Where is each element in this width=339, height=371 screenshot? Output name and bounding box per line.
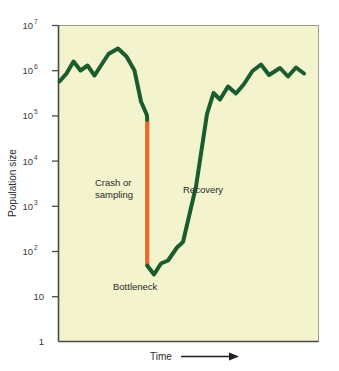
population-bottleneck-chart: 10 7 10 6 10 5 10 4 10 3 10 2 10 1 Popul… bbox=[0, 0, 339, 371]
y-tick-label-10e5-base: 10 bbox=[22, 110, 33, 121]
y-axis-tick-labels: 10 7 10 6 10 5 10 4 10 3 10 2 10 1 bbox=[22, 18, 44, 347]
y-axis-ticks bbox=[52, 26, 59, 297]
y-tick-label-10e6-exp: 6 bbox=[34, 63, 38, 70]
y-tick-label-10e5-exp: 5 bbox=[34, 108, 38, 115]
time-arrow-icon bbox=[181, 353, 239, 361]
annotation-crash-line2: sampling bbox=[95, 189, 133, 200]
y-tick-label-10e3-exp: 3 bbox=[34, 199, 38, 206]
y-tick-label-10e7-exp: 7 bbox=[34, 18, 38, 25]
annotation-recovery: Recovery bbox=[183, 184, 223, 195]
y-tick-label-10e2-base: 10 bbox=[22, 246, 33, 257]
figure-container: 10 7 10 6 10 5 10 4 10 3 10 2 10 1 Popul… bbox=[0, 0, 339, 371]
y-tick-label-10e1: 10 bbox=[33, 291, 44, 302]
y-tick-label-10e7-base: 10 bbox=[22, 20, 33, 31]
y-axis-title: Population size bbox=[7, 149, 18, 217]
y-tick-label-10e2-exp: 2 bbox=[34, 244, 38, 251]
annotation-crash-line1: Crash or bbox=[95, 177, 131, 188]
y-tick-label-10e3-base: 10 bbox=[22, 201, 33, 212]
y-tick-label-10e6-base: 10 bbox=[22, 65, 33, 76]
annotation-bottleneck: Bottleneck bbox=[113, 281, 158, 292]
y-tick-label-10e4-exp: 4 bbox=[34, 154, 38, 161]
y-tick-label-10e4-base: 10 bbox=[22, 156, 33, 167]
y-tick-label-1: 1 bbox=[39, 336, 44, 347]
x-axis-title: Time bbox=[150, 351, 172, 362]
